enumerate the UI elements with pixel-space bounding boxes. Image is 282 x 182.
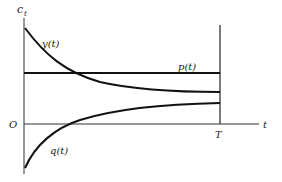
y-axis-label: c: [17, 3, 23, 16]
curve-q: [25, 103, 220, 168]
curve-q-label: q(t): [50, 145, 68, 156]
curve-y-label: y(t): [41, 38, 60, 49]
origin-label: O: [9, 119, 17, 130]
x-axis-label: t: [263, 119, 268, 130]
curve-p-label: p(t): [178, 61, 196, 72]
diagram-canvas: c t y(t) p(t) q(t) O T t: [0, 0, 282, 182]
terminal-time-label: T: [215, 129, 223, 140]
y-axis-label-subscript: t: [24, 10, 27, 18]
